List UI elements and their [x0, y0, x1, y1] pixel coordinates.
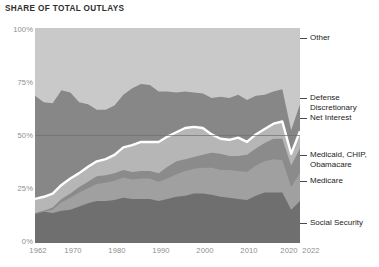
- callout-other: Other: [300, 33, 330, 43]
- plot-area: [35, 28, 300, 243]
- y-axis: 100% 75% 50% 25% 0%: [0, 0, 33, 267]
- x-tick-2000: 2000: [196, 246, 213, 255]
- callout-label-medicare: Medicare: [310, 176, 343, 186]
- callout-label-medicaid: Medicaid, CHIP, Obamacare: [310, 150, 367, 169]
- callout-label-defense-discretionary: Defense Discretionary: [310, 93, 357, 112]
- x-tick-1980: 1980: [108, 246, 125, 255]
- callout-medicaid: Medicaid, CHIP, Obamacare: [300, 150, 367, 169]
- callout-label-social-security: Social Security: [310, 218, 363, 228]
- stacked-area-plot: [35, 28, 300, 243]
- x-tick-1990: 1990: [152, 246, 169, 255]
- y-tick-0: 0%: [3, 237, 33, 246]
- x-tick-2010: 2010: [240, 246, 257, 255]
- leader-line-icon: [300, 155, 307, 156]
- x-tick-2020: 2020: [280, 246, 297, 255]
- share-of-total-outlays-chart: SHARE OF TOTAL OUTLAYS 100% 75% 50% 25% …: [0, 0, 379, 267]
- leader-line-icon: [300, 118, 307, 119]
- leader-line-icon: [300, 181, 307, 182]
- callout-net-interest: Net Interest: [300, 113, 351, 123]
- callout-label-other: Other: [310, 33, 330, 43]
- callout-social-security: Social Security: [300, 218, 363, 228]
- y-tick-100: 100%: [3, 25, 33, 34]
- y-tick-50: 50%: [3, 131, 33, 140]
- leader-line-icon: [300, 38, 307, 39]
- x-tick-1962: 1962: [29, 246, 46, 255]
- x-tick-1970: 1970: [64, 246, 81, 255]
- series-callouts: Other Defense Discretionary Net Interest…: [300, 0, 379, 267]
- leader-line-icon: [300, 98, 307, 99]
- callout-medicare: Medicare: [300, 176, 343, 186]
- callout-label-net-interest: Net Interest: [310, 113, 351, 123]
- callout-defense-discretionary: Defense Discretionary: [300, 93, 357, 112]
- y-tick-75: 75%: [3, 78, 33, 87]
- y-tick-25: 25%: [3, 184, 33, 193]
- leader-line-icon: [300, 223, 307, 224]
